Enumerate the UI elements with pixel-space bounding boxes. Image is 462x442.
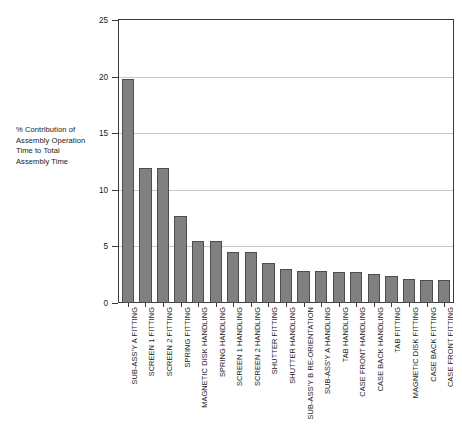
bar (420, 280, 432, 303)
bar (350, 272, 362, 303)
y-axis-tick (112, 190, 118, 191)
bar (139, 168, 151, 303)
x-axis-category-label: MAGNETIC DISK HANDLING (198, 307, 205, 408)
x-axis-category-label: SHUTTER FITTING (268, 307, 275, 374)
bar (297, 271, 309, 303)
bars-layer (119, 20, 453, 303)
bar-chart: % Contribution of Assembly Operation Tim… (0, 0, 462, 442)
x-axis-category-label: MAGNETIC DISK FITTING (409, 307, 416, 398)
x-axis-category-label: CASE BACK FITTING (427, 307, 434, 382)
bar (368, 274, 380, 303)
y-axis-tick (112, 303, 118, 304)
y-axis-tick (112, 133, 118, 134)
y-axis-tick-label: 15 (8, 129, 108, 138)
bar (210, 241, 222, 303)
y-axis-tick (112, 77, 118, 78)
bar (174, 216, 186, 303)
x-axis-category-label: SCREEN 1 FITTING (145, 307, 152, 376)
bar (192, 241, 204, 303)
x-axis-category-label: SUB-ASS'Y A FITTING (128, 307, 135, 385)
y-axis-tick-label: 5 (8, 242, 108, 251)
x-axis-category-label: SCREEN 2 FITTING (163, 307, 170, 376)
x-axis-category-label: SUB-ASS'Y A HANDLING (321, 307, 328, 394)
y-axis-tick-label: 0 (8, 299, 108, 308)
bar (385, 276, 397, 303)
x-axis-category-label: TAB HANDLING (339, 307, 346, 362)
y-axis-tick (112, 20, 118, 21)
bar (403, 279, 415, 303)
y-axis-tick (112, 246, 118, 247)
x-axis-category-label: SUB-ASS'Y B RE-ORIENTATION (304, 307, 311, 419)
bar (245, 252, 257, 303)
y-axis-tick-label: 10 (8, 185, 108, 194)
bar (122, 79, 134, 303)
x-axis-category-label: CASE FRONT HANDLING (356, 307, 363, 397)
bar (438, 280, 450, 303)
bar (315, 271, 327, 303)
bar (157, 168, 169, 303)
y-axis-tick-label: 25 (8, 16, 108, 25)
x-axis-category-label: SCREEN 2 HANDLING (251, 307, 258, 386)
x-axis-category-label: SHUTTER HANDLING (286, 307, 293, 384)
x-axis-category-label: SPRING HANDLING (216, 307, 223, 377)
x-axis-category-label: SCREEN 1 HANDLING (233, 307, 240, 386)
bar (227, 252, 239, 303)
x-axis-category-label: SPRING FITTING (181, 307, 188, 368)
y-axis-tick-label: 20 (8, 72, 108, 81)
x-axis-labels: SUB-ASS'Y A FITTINGSCREEN 1 FITTINGSCREE… (119, 307, 453, 442)
bar (333, 272, 345, 303)
x-axis-category-label: CASE BACK HANDLING (374, 307, 381, 391)
bar (280, 269, 292, 303)
bar (262, 263, 274, 303)
x-axis-category-label: CASE FRONT FITTING (444, 307, 451, 387)
x-axis-category-label: TAB FITTING (391, 307, 398, 353)
